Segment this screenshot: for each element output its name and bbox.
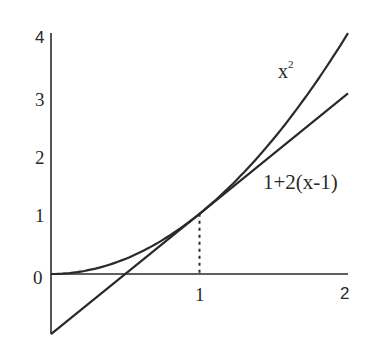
y-tick-label-1: 1 — [35, 206, 45, 225]
curve-label-x-squared: x2 — [278, 61, 294, 81]
x-tick-label-2: 2 — [340, 285, 349, 302]
parabola-curve-x-squared — [51, 33, 348, 274]
x-tick-label-1: 1 — [195, 285, 205, 304]
curve-label-exponent: 2 — [288, 58, 294, 70]
y-tick-label-3: 3 — [35, 90, 45, 109]
y-tick-label-0: 0 — [33, 268, 43, 287]
tangent-line-label: 1+2(x-1) — [263, 172, 338, 193]
y-tick-label-4: 4 — [35, 29, 44, 46]
y-tick-label-2: 2 — [35, 148, 45, 167]
curve-label-base: x — [278, 60, 288, 82]
